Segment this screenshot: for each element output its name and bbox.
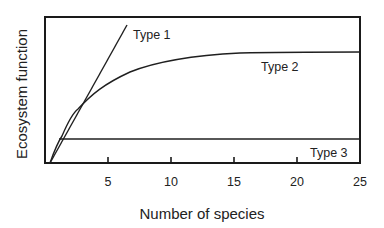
type2-label: Type 2 [261, 60, 299, 74]
x-axis-title: Number of species [139, 205, 264, 222]
x-tick-label-15: 15 [227, 175, 241, 189]
type3-label: Type 3 [310, 146, 348, 160]
plot-frame [45, 17, 360, 163]
x-tick-label-25: 25 [353, 175, 367, 189]
y-axis-title: Ecosystem function [13, 29, 30, 159]
x-tick-label-5: 5 [105, 175, 112, 189]
x-tick-label-10: 10 [164, 175, 178, 189]
x-tick-label-20: 20 [290, 175, 304, 189]
type1-line [50, 25, 127, 163]
type1-label: Type 1 [133, 28, 171, 42]
ecosystem-function-chart: 5 10 15 20 25 Type 1 Type 2 Type 3 Numbe… [0, 0, 384, 228]
